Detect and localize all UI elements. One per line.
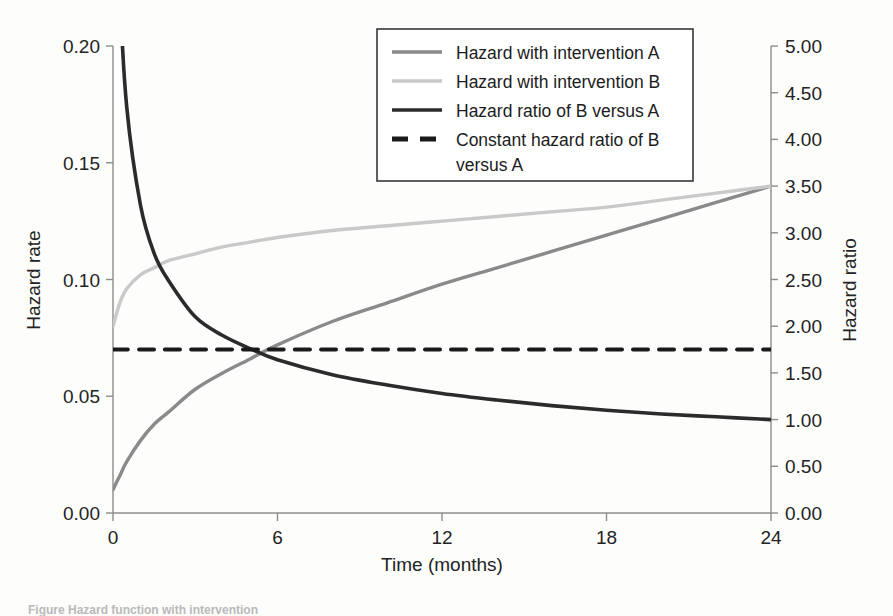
- left-axis-ticks: [106, 46, 113, 513]
- left-tick-label: 0.00: [63, 503, 100, 524]
- x-axis-title: Time (months): [381, 554, 503, 575]
- right-tick-label: 1.00: [785, 410, 822, 431]
- x-axis-ticks: [113, 513, 771, 521]
- chart-legend: Hazard with intervention AHazard with in…: [377, 29, 693, 181]
- x-tick-label: 6: [272, 527, 283, 548]
- legend-label-4: Constant hazard ratio of B: [456, 130, 659, 150]
- x-tick-label: 0: [108, 527, 119, 548]
- figure-root: 0.000.050.100.150.20 0.000.501.001.502.0…: [0, 0, 893, 616]
- x-tick-label: 12: [431, 527, 452, 548]
- legend-label-4-line2: versus A: [456, 155, 523, 175]
- right-tick-label: 0.00: [785, 503, 822, 524]
- series-line-2: [113, 186, 771, 326]
- right-tick-label: 4.50: [785, 83, 822, 104]
- right-tick-label: 0.50: [785, 456, 822, 477]
- y2-axis-title: Hazard ratio: [839, 238, 860, 342]
- figure-caption: Figure Hazard function with intervention: [28, 603, 258, 616]
- left-tick-label: 0.05: [63, 386, 100, 407]
- hazard-chart: 0.000.050.100.150.20 0.000.501.001.502.0…: [0, 0, 893, 616]
- x-tick-label: 18: [596, 527, 617, 548]
- left-tick-label: 0.10: [63, 270, 100, 291]
- right-axis-ticks: [771, 46, 778, 513]
- legend-label-1: Hazard with intervention A: [456, 43, 660, 63]
- right-tick-label: 4.00: [785, 129, 822, 150]
- right-tick-label: 5.00: [785, 36, 822, 57]
- right-tick-label: 1.50: [785, 363, 822, 384]
- legend-label-3: Hazard ratio of B versus A: [456, 101, 660, 121]
- left-axis-tick-labels: 0.000.050.100.150.20: [63, 36, 100, 524]
- x-tick-label: 24: [760, 527, 782, 548]
- right-tick-label: 3.00: [785, 223, 822, 244]
- right-tick-label: 2.00: [785, 316, 822, 337]
- right-tick-label: 3.50: [785, 176, 822, 197]
- left-tick-label: 0.20: [63, 36, 100, 57]
- right-tick-label: 2.50: [785, 270, 822, 291]
- series-line-1: [113, 186, 771, 490]
- caption-text: Figure Hazard function with intervention: [28, 603, 258, 616]
- left-tick-label: 0.15: [63, 153, 100, 174]
- y-axis-title: Hazard rate: [23, 230, 44, 329]
- legend-label-2: Hazard with intervention B: [456, 72, 660, 92]
- x-axis-tick-labels: 06121824: [108, 527, 782, 548]
- right-axis-tick-labels: 0.000.501.001.502.002.503.003.504.004.50…: [785, 36, 822, 524]
